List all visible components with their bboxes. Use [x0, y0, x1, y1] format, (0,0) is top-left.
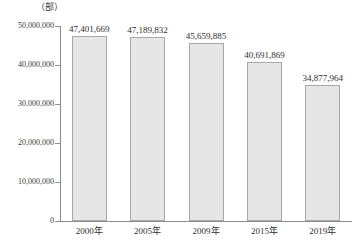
y-axis-tick [55, 221, 60, 222]
bar [130, 37, 165, 221]
bar-value-label: 45,659,885 [171, 31, 241, 41]
bar [72, 36, 107, 221]
y-axis-tick-label: 0 [50, 217, 54, 225]
y-axis-tick-label: 20,000,000 [18, 139, 54, 147]
bar [189, 43, 224, 221]
y-axis-unit-label: （部） [36, 1, 63, 13]
y-axis-tick-label: 30,000,000 [18, 100, 54, 108]
x-axis-category-label: 2000年 [59, 226, 119, 237]
plot-area [60, 26, 352, 221]
x-axis-category-label: 2015年 [234, 226, 294, 237]
y-axis-tick-label: 10,000,000 [18, 178, 54, 186]
y-axis-tick-label: 50,000,000 [18, 22, 54, 30]
bar-chart: （部） 50,000,00040,000,00030,000,00020,000… [0, 0, 363, 247]
x-axis-line [60, 221, 352, 222]
bar [247, 62, 282, 221]
x-axis-category-label: 2005年 [118, 226, 178, 237]
bar [305, 85, 340, 221]
y-axis-tick-label: 40,000,000 [18, 61, 54, 69]
bar-value-label: 34,877,964 [288, 73, 358, 83]
bar-value-label: 40,691,869 [229, 50, 299, 60]
x-axis-category-label: 2019年 [293, 226, 353, 237]
x-axis-category-label: 2009年 [176, 226, 236, 237]
